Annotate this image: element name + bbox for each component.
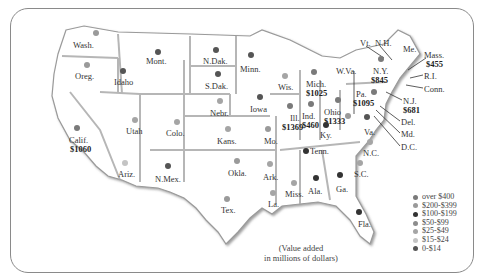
state-marker-pa xyxy=(371,89,377,95)
state-label-conn: Conn. xyxy=(424,85,445,94)
state-label-nmex: N.Mex. xyxy=(155,175,181,184)
state-label-mont: Mont. xyxy=(146,57,167,66)
state-label-oreg: Oreg. xyxy=(75,72,94,81)
state-label-minn: Minn. xyxy=(240,65,261,74)
units-note: (Value added in millions of dollars) xyxy=(256,243,346,263)
state-marker-ark xyxy=(267,161,273,167)
state-marker-utah xyxy=(132,117,138,123)
state-marker-fla xyxy=(356,209,362,215)
state-label-me: Me. xyxy=(403,45,416,54)
state-label-wva: W.Va. xyxy=(336,67,356,76)
state-label-la: La. xyxy=(268,200,279,209)
state-value-mass: $455 xyxy=(426,60,443,69)
state-label-vt: Vt. xyxy=(360,39,371,48)
state-marker-miss xyxy=(291,180,297,186)
legend-swatch xyxy=(413,221,418,226)
state-marker-va xyxy=(364,114,370,120)
state-label-ariz: Ariz. xyxy=(118,170,135,179)
legend: over $400 $200-$399 $100-$199 $50-$99 $2… xyxy=(413,193,457,253)
state-label-tex: Tex. xyxy=(221,206,236,215)
state-marker-ind xyxy=(308,101,314,107)
state-marker-sc xyxy=(357,160,363,166)
state-label-del: Del. xyxy=(401,118,415,127)
state-value-calif: $1060 xyxy=(70,145,91,154)
state-marker-okla xyxy=(234,158,240,164)
state-marker-ndak xyxy=(213,47,219,53)
state-value-ind: $460 xyxy=(302,121,319,130)
state-marker-ny xyxy=(378,56,384,62)
state-value-ny: $845 xyxy=(371,76,388,85)
state-marker-nebr xyxy=(217,98,223,104)
legend-item-0-14: 0-$14 xyxy=(413,245,457,254)
state-marker-nmex xyxy=(165,163,171,169)
state-marker-colo xyxy=(174,119,180,125)
state-label-sc: S.C. xyxy=(354,170,369,179)
state-label-ri: R.I. xyxy=(424,72,437,81)
state-label-ndak: N.Dak. xyxy=(203,57,228,66)
state-marker-idaho xyxy=(120,68,126,74)
legend-swatch xyxy=(413,203,418,208)
state-marker-tenn xyxy=(303,148,309,154)
legend-swatch xyxy=(413,229,418,234)
state-marker-la xyxy=(270,190,276,196)
state-label-nh: N.H. xyxy=(375,39,392,48)
state-marker-ala xyxy=(313,175,319,181)
state-marker-mich xyxy=(311,69,317,75)
legend-swatch xyxy=(413,238,418,243)
state-label-wis: Wis. xyxy=(278,83,293,92)
state-label-nc: N.C. xyxy=(363,149,379,158)
state-marker-mont xyxy=(155,49,161,55)
state-marker-wis xyxy=(282,73,288,79)
state-label-fla: Fla. xyxy=(358,220,371,229)
state-marker-mo xyxy=(265,126,271,132)
state-marker-tex xyxy=(224,196,230,202)
state-label-nebr: Nebr. xyxy=(210,109,229,118)
state-marker-ga xyxy=(337,172,343,178)
state-marker-ill xyxy=(287,103,293,109)
state-label-md: Md. xyxy=(401,130,415,139)
legend-swatch xyxy=(413,246,418,251)
state-label-ga: Ga. xyxy=(336,185,348,194)
state-label-sdak: S.Dak. xyxy=(205,82,228,91)
state-label-wash: Wash. xyxy=(73,41,94,50)
state-label-ark: Ark. xyxy=(263,173,278,182)
state-value-mich: $1025 xyxy=(306,89,327,98)
state-label-dc: D.C. xyxy=(401,143,417,152)
state-label-miss: Miss. xyxy=(285,190,304,199)
state-marker-ohio xyxy=(335,97,341,103)
state-label-utah: Utah xyxy=(126,127,143,136)
state-label-ky: Ky. xyxy=(320,131,332,140)
state-label-tenn: Tenn. xyxy=(310,147,329,156)
state-value-ill: $1369 xyxy=(282,123,303,132)
legend-swatch xyxy=(413,195,418,200)
state-label-colo: Colo. xyxy=(166,129,185,138)
state-label-kans: Kans. xyxy=(217,137,237,146)
state-label-va: Va. xyxy=(364,128,375,137)
state-label-okla: Okla. xyxy=(228,169,247,178)
state-marker-oreg xyxy=(84,62,90,68)
state-marker-nc xyxy=(367,139,373,145)
state-marker-minn xyxy=(248,52,254,58)
state-label-ala: Ala. xyxy=(308,187,322,196)
state-label-iowa: Iowa xyxy=(250,105,267,114)
state-label-idaho: Idaho xyxy=(114,78,133,87)
state-marker-ky xyxy=(323,122,329,128)
state-value-pa: $1095 xyxy=(353,99,374,108)
state-marker-wash xyxy=(93,30,99,36)
state-marker-ariz xyxy=(122,160,128,166)
legend-swatch xyxy=(413,212,418,217)
state-marker-iowa xyxy=(257,94,263,100)
state-marker-calif xyxy=(74,125,80,131)
state-value-nj: $681 xyxy=(403,106,420,115)
state-marker-kans xyxy=(225,126,231,132)
state-label-mo: Mo. xyxy=(264,137,278,146)
state-marker-wva xyxy=(345,113,351,119)
state-marker-sdak xyxy=(215,71,221,77)
